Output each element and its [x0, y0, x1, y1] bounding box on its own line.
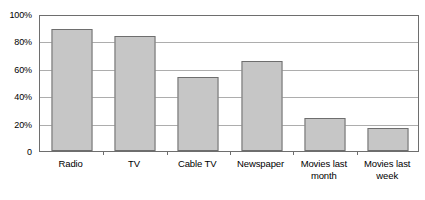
- bar-slot-movies-last-month: [293, 15, 356, 151]
- bars-layer: [40, 15, 418, 151]
- y-tick-label-40: 40%: [14, 93, 32, 102]
- bar-tv[interactable]: [114, 36, 155, 151]
- y-tick-label-0: 0: [27, 148, 32, 157]
- bar-newspaper[interactable]: [241, 61, 282, 151]
- x-axis: Radio TV Cable TV Newspaper Movies last …: [39, 158, 419, 198]
- bar-slot-cable-tv: [167, 15, 230, 151]
- x-tick-5: [357, 151, 358, 155]
- bar-movies-last-month[interactable]: [304, 118, 345, 151]
- x-cat-label-tv: TV: [102, 158, 165, 170]
- bar-slot-movies-last-week: [357, 15, 420, 151]
- x-cat-label-radio: Radio: [39, 158, 102, 170]
- y-tick-label-20: 20%: [14, 120, 32, 129]
- x-cat-label-movies-last-week: Movies last week: [356, 158, 419, 181]
- bar-slot-newspaper: [230, 15, 293, 151]
- x-cat-label-newspaper: Newspaper: [229, 158, 292, 170]
- x-tick-4: [293, 151, 294, 155]
- bar-slot-radio: [40, 15, 103, 151]
- plot-area: [39, 15, 419, 152]
- y-tick-label-80: 80%: [14, 38, 32, 47]
- x-tick-1: [103, 151, 104, 155]
- x-cat-label-cable-tv: Cable TV: [166, 158, 229, 170]
- x-tick-3: [230, 151, 231, 155]
- y-axis: 100% 80% 60% 40% 20% 0: [0, 0, 36, 200]
- bar-radio[interactable]: [51, 29, 92, 151]
- bar-chart: 100% 80% 60% 40% 20% 0: [0, 0, 425, 200]
- y-tick-label-100: 100%: [9, 11, 32, 20]
- bar-slot-tv: [103, 15, 166, 151]
- bar-movies-last-week[interactable]: [368, 128, 409, 151]
- bar-cable-tv[interactable]: [178, 77, 219, 151]
- x-tick-2: [167, 151, 168, 155]
- y-tick-label-60: 60%: [14, 65, 32, 74]
- x-cat-label-movies-last-month: Movies last month: [292, 158, 355, 181]
